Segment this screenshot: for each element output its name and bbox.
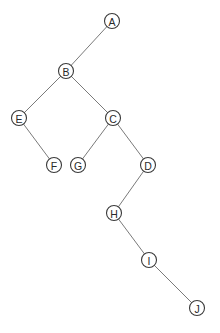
edge-e-f xyxy=(23,124,49,159)
node-label: B xyxy=(62,66,69,78)
tree-node-b: B xyxy=(59,64,74,79)
node-label: F xyxy=(51,160,57,172)
edge-c-g xyxy=(82,124,108,159)
node-label: E xyxy=(15,113,22,125)
edge-d-h xyxy=(118,171,143,207)
node-label: D xyxy=(144,160,152,172)
edge-h-i xyxy=(118,219,144,254)
tree-node-j: J xyxy=(190,301,205,316)
tree-node-c: C xyxy=(106,111,121,126)
node-label: G xyxy=(74,160,82,172)
node-label: H xyxy=(110,208,118,220)
tree-diagram: ABECFGDHIJ xyxy=(0,0,220,333)
tree-node-d: D xyxy=(141,158,156,173)
tree-node-f: F xyxy=(47,158,62,173)
node-label: C xyxy=(109,113,117,125)
edge-b-c xyxy=(71,76,107,112)
node-label: A xyxy=(108,16,115,28)
tree-node-g: G xyxy=(71,158,86,173)
tree-node-e: E xyxy=(12,111,27,126)
nodes-layer: ABECFGDHIJ xyxy=(12,14,205,316)
edge-i-j xyxy=(154,265,191,302)
tree-node-h: H xyxy=(107,206,122,221)
edge-b-e xyxy=(24,76,60,112)
edge-a-b xyxy=(71,27,107,66)
edge-c-d xyxy=(117,124,143,159)
node-label: I xyxy=(148,255,151,267)
node-label: J xyxy=(194,303,199,315)
tree-node-a: A xyxy=(105,14,120,29)
tree-node-i: I xyxy=(142,253,157,268)
